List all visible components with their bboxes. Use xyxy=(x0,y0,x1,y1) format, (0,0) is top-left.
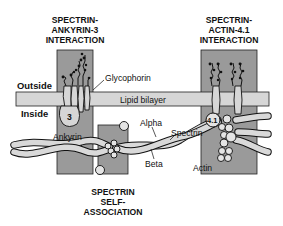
inside-label: Inside xyxy=(21,108,48,119)
ankyrin-interaction-title: SPECTRIN- ANKYRIN-3 INTERACTION xyxy=(46,15,105,45)
ankyrin-title-line3: INTERACTION xyxy=(46,35,105,45)
actin-title-line3: INTERACTION xyxy=(200,35,259,45)
beta-label: Beta xyxy=(145,159,163,169)
self-title-line1: SPECTRIN xyxy=(91,187,134,197)
glycophorin-label: Glycophorin xyxy=(105,73,151,83)
protein-4-1-label: 4.1 xyxy=(207,116,217,125)
actin-interaction-title: SPECTRIN- ACTIN-4.1 INTERACTION xyxy=(200,15,259,45)
alpha-label: Alpha xyxy=(140,118,162,128)
actin-label: Actin xyxy=(193,163,212,173)
erythrocyte-membrane-diagram: 3 xyxy=(0,0,283,226)
ankyrin-title-line1: SPECTRIN- xyxy=(52,15,98,25)
actin-title-line2: ACTIN-4.1 xyxy=(208,25,249,35)
actin-title-line1: SPECTRIN- xyxy=(206,15,252,25)
self-title-line2: SELF- xyxy=(101,197,126,207)
spectrin-label: Spectrin xyxy=(171,128,203,138)
ankyrin-title-line2: ANKYRIN-3 xyxy=(52,25,99,35)
self-association-title: SPECTRIN SELF- ASSOCIATION xyxy=(83,187,142,217)
self-title-line3: ASSOCIATION xyxy=(83,207,142,217)
outside-label: Outside xyxy=(17,80,52,91)
band3-label: 3 xyxy=(67,112,72,122)
lipid-bilayer-label: Lipid bilayer xyxy=(120,95,166,105)
ankyrin-label: Ankyrin xyxy=(53,132,82,142)
diagram-svg: 3 xyxy=(0,0,283,226)
protein-4-1: 4.1 xyxy=(206,113,220,127)
